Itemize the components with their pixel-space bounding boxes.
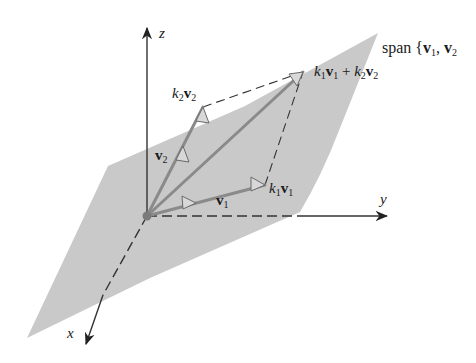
k2v2-v-sub: 2 [191, 92, 196, 103]
span-v2-sub: 2 [452, 47, 457, 58]
span-label: span {v1, v2 [382, 40, 457, 58]
span-sep: , [436, 39, 444, 56]
z-axis-label: z [159, 26, 165, 41]
k2v2-k: k [172, 85, 179, 101]
v2-v: v [155, 147, 163, 163]
origin-point [143, 212, 152, 221]
sum-plus: + [338, 63, 354, 79]
y-axis-label: y [380, 192, 387, 207]
x-axis-label: x [67, 326, 74, 341]
span-v1: v [423, 39, 431, 56]
k2v2-label: k2v2 [172, 86, 196, 103]
v2-label: v2 [155, 148, 168, 165]
v1-sub: 1 [224, 199, 229, 210]
v2-sub: 2 [163, 154, 168, 165]
v1-label: v1 [216, 193, 229, 210]
span-prefix: span { [382, 39, 423, 56]
k1v1-label: k1v1 [269, 181, 293, 198]
k1v1-k: k [269, 180, 276, 196]
v1-v: v [216, 192, 224, 208]
sum-k2: k [354, 63, 361, 79]
span-diagram: z y x span {v1, v2 k1v1 + k2v2 k2v2 v2 v… [0, 0, 476, 363]
sum-label: k1v1 + k2v2 [314, 64, 378, 81]
sum-k1: k [314, 63, 321, 79]
span-v2: v [444, 39, 452, 56]
sum-v2-sub: 2 [373, 70, 378, 81]
k1v1-v-sub: 1 [288, 187, 293, 198]
